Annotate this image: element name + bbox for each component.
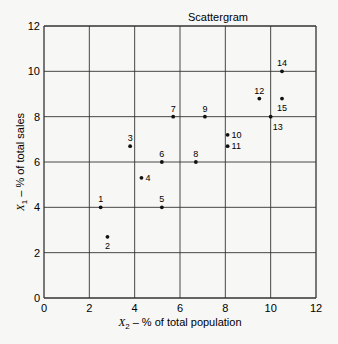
point-marker <box>99 205 103 209</box>
point-label: 7 <box>171 104 176 114</box>
y-tick-label: 4 <box>34 201 40 213</box>
point-marker <box>257 97 261 101</box>
grid <box>44 26 316 298</box>
data-point: 8 <box>193 149 198 164</box>
y-tick-label: 6 <box>34 156 40 168</box>
y-tick-label: 8 <box>34 111 40 123</box>
point-label: 1 <box>98 194 103 204</box>
data-point: 5 <box>159 194 164 209</box>
x-tick-label: 6 <box>177 302 183 314</box>
data-point: 4 <box>140 173 151 183</box>
y-axis-ticks: 024681012 <box>28 20 40 304</box>
data-point: 1 <box>98 194 103 209</box>
x-tick-label: 2 <box>86 302 92 314</box>
x-tick-label: 12 <box>310 302 322 314</box>
point-label: 9 <box>202 104 207 114</box>
data-point: 9 <box>202 104 207 119</box>
data-point: 2 <box>105 235 110 251</box>
point-label: 8 <box>193 149 198 159</box>
point-label: 3 <box>128 133 133 143</box>
x-axis-label: X2 – % of total population <box>117 316 241 331</box>
point-marker <box>140 176 144 180</box>
point-label: 13 <box>273 122 283 132</box>
point-marker <box>106 235 110 239</box>
y-axis-label: X1 – % of total sales <box>14 112 29 212</box>
x-tick-label: 4 <box>132 302 138 314</box>
y-tick-label: 2 <box>34 247 40 259</box>
point-marker <box>226 133 230 137</box>
x-tick-label: 8 <box>222 302 228 314</box>
point-marker <box>194 160 198 164</box>
point-marker <box>269 115 273 119</box>
point-label: 2 <box>105 241 110 251</box>
point-marker <box>171 115 175 119</box>
point-marker <box>128 144 132 148</box>
data-point: 3 <box>128 133 133 148</box>
x-tick-label: 10 <box>265 302 277 314</box>
point-marker <box>160 205 164 209</box>
chart-title: Scattergram <box>188 11 248 23</box>
data-point: 6 <box>159 149 164 164</box>
y-tick-label: 10 <box>28 65 40 77</box>
point-marker <box>160 160 164 164</box>
data-points: 123456789101112131415 <box>98 58 287 250</box>
data-point: 10 <box>226 130 242 140</box>
scattergram-chart: Scattergram 024681012 024681012 12345678… <box>0 0 338 344</box>
point-label: 14 <box>277 58 287 68</box>
point-label: 4 <box>145 173 150 183</box>
point-label: 6 <box>159 149 164 159</box>
point-label: 10 <box>232 130 242 140</box>
point-label: 11 <box>232 141 241 151</box>
y-tick-label: 12 <box>28 20 40 32</box>
x-axis-ticks: 024681012 <box>41 302 322 314</box>
point-label: 15 <box>277 103 287 113</box>
point-marker <box>226 144 230 148</box>
data-point: 11 <box>226 141 241 151</box>
data-point: 12 <box>254 86 264 101</box>
point-label: 5 <box>159 194 164 204</box>
x-tick-label: 0 <box>41 302 47 314</box>
y-tick-label: 0 <box>34 292 40 304</box>
point-marker <box>280 69 284 73</box>
data-point: 7 <box>171 104 176 119</box>
point-label: 12 <box>254 86 264 96</box>
point-marker <box>280 97 284 101</box>
point-marker <box>203 115 207 119</box>
data-point: 15 <box>277 97 287 113</box>
